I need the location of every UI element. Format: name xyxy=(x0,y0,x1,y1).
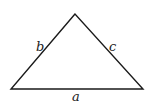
label-side-b: b xyxy=(36,39,44,54)
label-side-c: c xyxy=(109,39,117,54)
triangle-diagram: b c a xyxy=(0,0,151,107)
label-side-a: a xyxy=(72,89,80,104)
triangle-shape xyxy=(11,14,143,89)
